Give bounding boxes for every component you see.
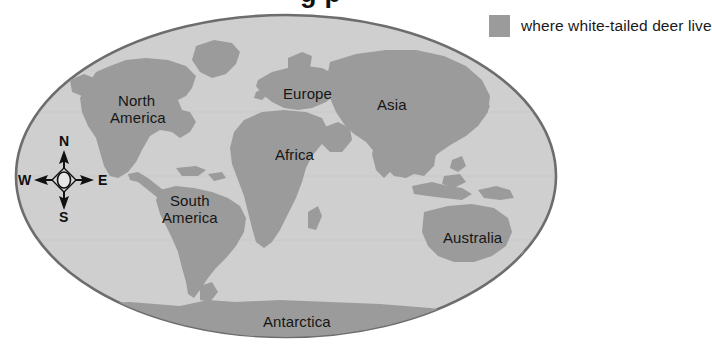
compass-label-east: E: [98, 172, 107, 188]
compass-label-west: W: [18, 172, 32, 188]
label-australia: Australia: [443, 229, 503, 246]
label-europe: Europe: [283, 85, 332, 102]
label-antarctica: Antarctica: [263, 313, 331, 330]
label-north-america: North: [118, 92, 155, 109]
compass-label-north: N: [59, 133, 69, 149]
compass-center-ring: [58, 172, 71, 188]
label-south-america: South: [170, 192, 210, 209]
label-africa: Africa: [275, 146, 314, 163]
compass-label-south: S: [59, 209, 68, 225]
label-north-america-line2: America: [110, 109, 166, 126]
label-south-america-line2: America: [162, 209, 218, 226]
new-zealand-south-landmass: [512, 266, 526, 278]
label-asia: Asia: [377, 96, 407, 113]
